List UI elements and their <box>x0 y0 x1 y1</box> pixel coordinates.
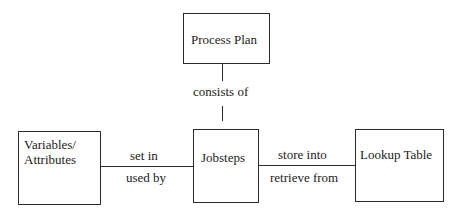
process-plan-label: Process Plan <box>191 32 257 47</box>
store-into-label: store into <box>278 147 327 163</box>
lookup-table-node: Lookup Table <box>355 129 444 202</box>
process-plan-node: Process Plan <box>183 13 270 64</box>
lookup-table-label: Lookup Table <box>360 147 432 162</box>
connector-variables-jobsteps <box>101 166 193 167</box>
connector-plan-upper <box>222 64 223 81</box>
used-by-label: used by <box>126 170 166 186</box>
variables-label: Variables/ <box>24 137 76 152</box>
attributes-label: Attributes <box>24 152 76 167</box>
jobsteps-label: Jobsteps <box>201 150 245 165</box>
retrieve-from-label: retrieve from <box>270 170 338 186</box>
variables-attributes-node: Variables/ Attributes <box>18 131 101 205</box>
connector-jobsteps-lookup <box>259 165 355 166</box>
jobsteps-node: Jobsteps <box>193 129 259 203</box>
consists-of-label: consists of <box>193 84 248 100</box>
set-in-label: set in <box>130 148 158 164</box>
connector-plan-lower <box>222 106 223 121</box>
